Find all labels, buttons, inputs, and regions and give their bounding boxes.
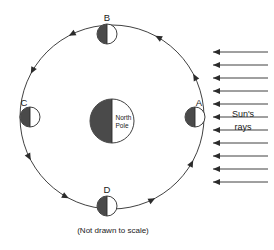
orbit-direction-arrow [187,159,196,168]
sun-ray-arrowhead [213,127,220,133]
sun-ray [213,179,268,185]
orbit-direction-arrow [67,30,76,39]
sun-ray-arrowhead [213,88,220,94]
sun-ray [213,75,268,81]
sun-ray [213,153,268,159]
sun-ray [213,88,268,94]
sun-ray [213,140,268,146]
sun-ray [213,166,268,172]
not-drawn-to-scale-caption: (Not drawn to scale) [77,226,149,235]
sun-ray [213,101,268,107]
orbit-direction-arrow [25,153,34,162]
suns-rays-label-line2: rays [234,122,252,132]
sun-ray [213,62,268,68]
orbit-direction-arrow [148,195,157,204]
orbit-direction-arrow [28,66,37,75]
sun-ray-arrowhead [213,114,220,120]
orbit-position-d-label: D [104,184,111,195]
sun-ray-arrowhead [213,75,220,81]
sun-ray [213,49,268,55]
orbit-direction-arrow [190,72,199,81]
orbit-position-a-shadow-half [185,107,195,127]
orbit-position-d [97,196,117,216]
orbit-position-d-shadow-half [97,196,107,216]
orbit-position-b [97,24,117,44]
orbit-position-c-label: C [21,97,28,108]
north-pole-label-line2: Pole [116,122,129,129]
sun-ray-arrowhead [213,62,220,68]
sun-ray-arrowhead [213,49,220,55]
suns-rays-label-line1: Sun's [232,109,255,119]
orbit-position-a-label: A [196,97,203,108]
diagram-canvas: NorthPole ABCD Sun's rays (Not drawn to … [0,0,274,250]
orbit-position-c [20,107,40,127]
orbit-position-a [185,107,205,127]
sun-ray-arrowhead [213,101,220,107]
sun-ray-arrowhead [213,179,220,185]
north-pole-body: NorthPole [90,99,134,143]
orbit-direction-arrow [61,192,70,201]
north-pole-label-line1: North [116,114,132,121]
sun-ray-arrowhead [213,140,220,146]
north-pole-body-shadow-half [90,99,112,143]
orbit-position-c-shadow-half [20,107,30,127]
sun-ray-arrowhead [213,153,220,159]
orbit-diagram: NorthPole ABCD Sun's rays (Not drawn to … [0,0,274,250]
orbit-position-b-label: B [104,12,110,23]
orbit-direction-arrow [154,33,163,42]
orbit-position-b-shadow-half [97,24,107,44]
sun-ray-arrowhead [213,166,220,172]
